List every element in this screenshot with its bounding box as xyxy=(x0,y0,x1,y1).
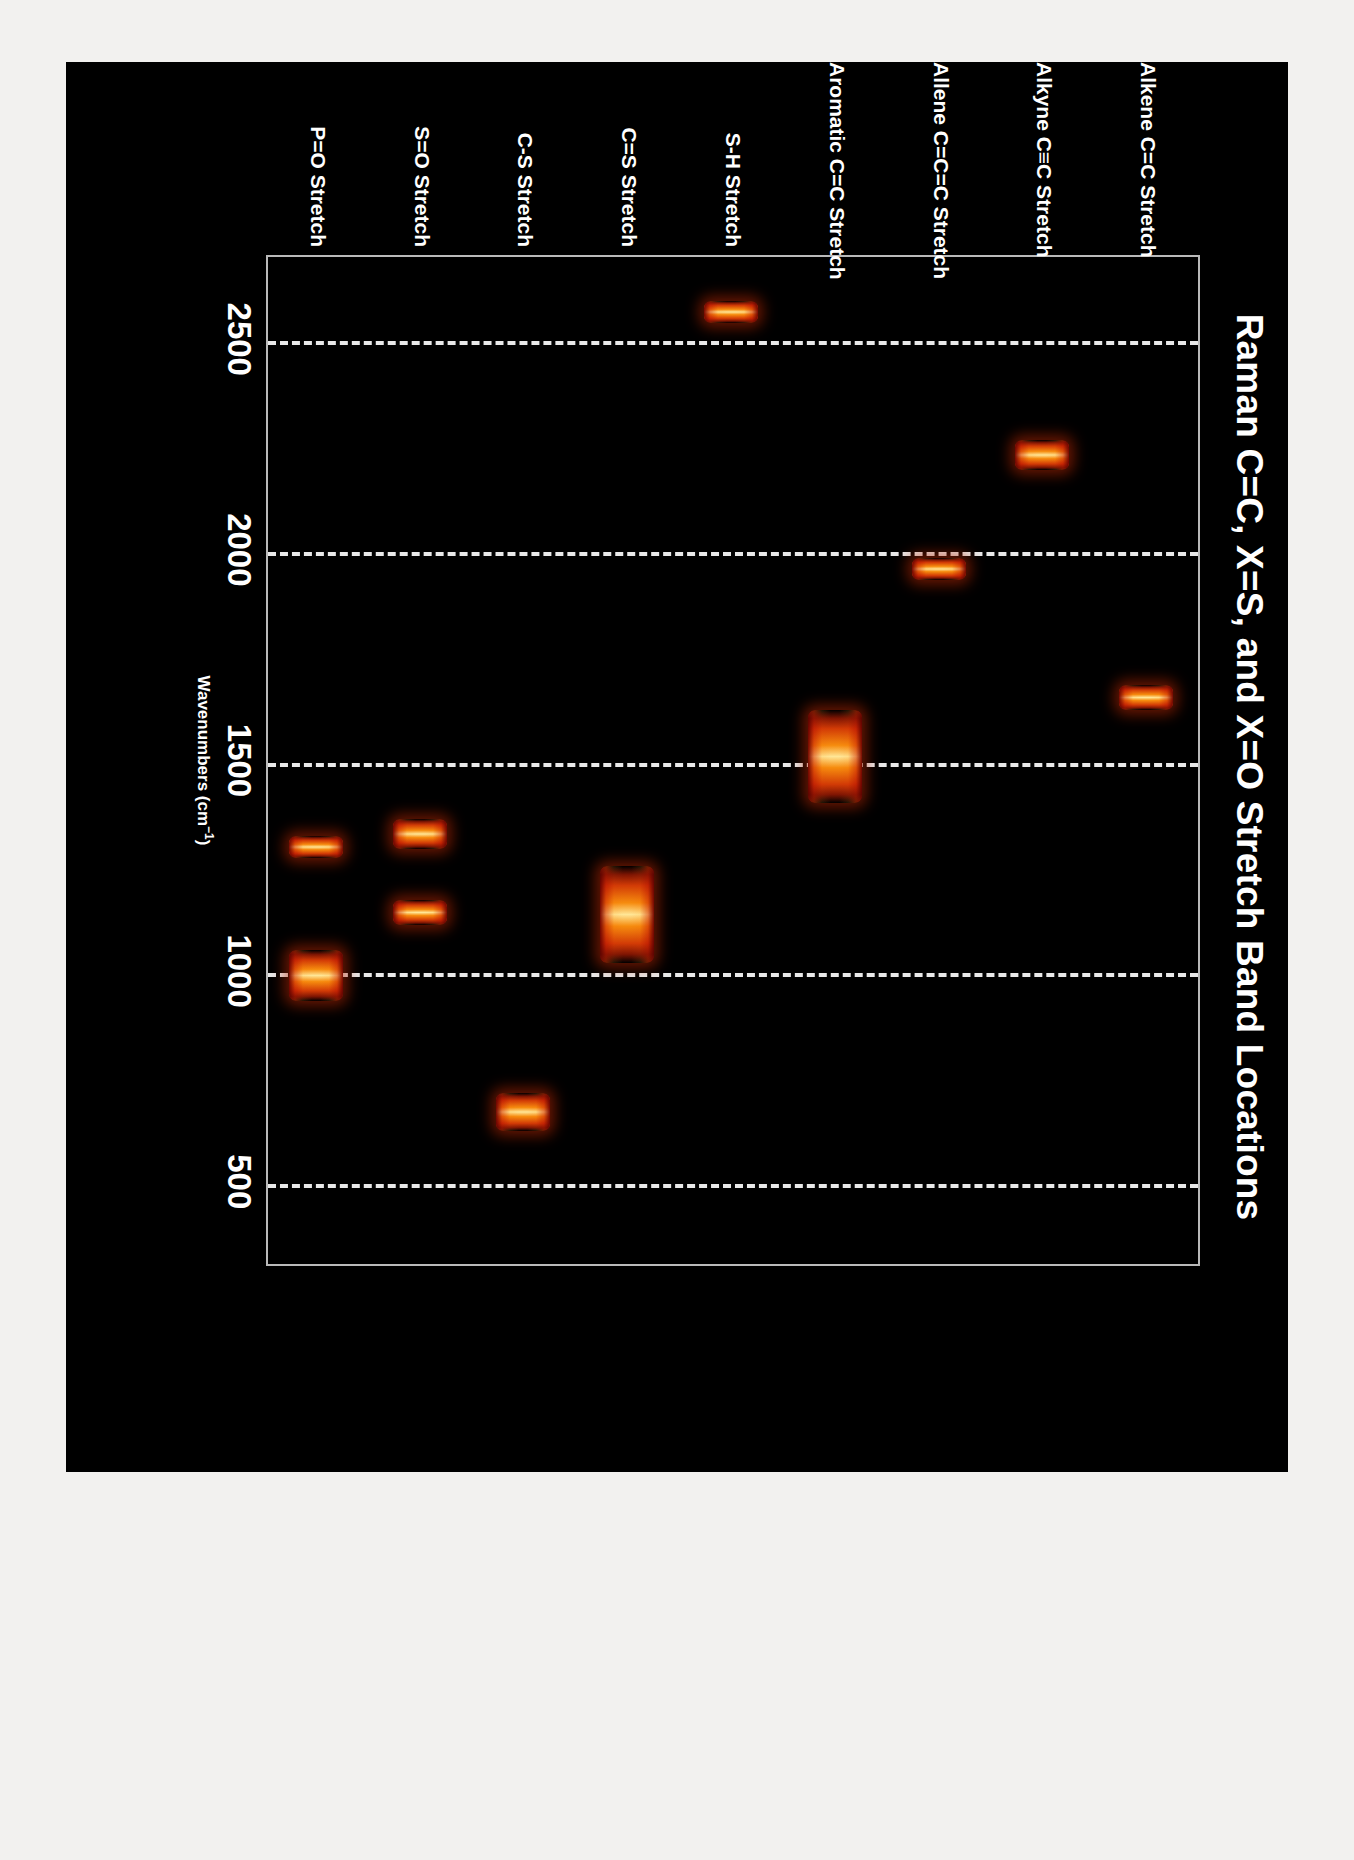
band-marker xyxy=(704,301,758,323)
rotated-chart-stage: Raman C=C, X=S, and X=O Stretch Band Loc… xyxy=(66,62,1288,1472)
band-marker xyxy=(393,819,447,848)
x-tick-label: 2500 xyxy=(220,303,258,376)
category-label: Alkene C=C Stretch xyxy=(1136,62,1160,247)
band-marker xyxy=(289,836,343,858)
gridline xyxy=(268,973,1198,977)
x-axis-label-text: Wavenumbers (cm−1) xyxy=(194,676,213,846)
x-tick-label: 1000 xyxy=(220,934,258,1007)
category-label: S-H Stretch xyxy=(721,62,745,247)
chart-title: Raman C=C, X=S, and X=O Stretch Band Loc… xyxy=(1228,62,1270,1472)
x-axis-label: Wavenumbers (cm−1) xyxy=(193,255,216,1266)
category-label: Allene C=C=C Stretch xyxy=(929,62,953,247)
category-label: C=S Stretch xyxy=(617,62,641,247)
band-marker xyxy=(289,950,343,1001)
plot-area xyxy=(266,255,1200,1266)
gridline xyxy=(268,1184,1198,1188)
band-marker xyxy=(1119,685,1173,710)
band-marker xyxy=(808,710,862,803)
page-root: Raman C=C, X=S, and X=O Stretch Band Loc… xyxy=(0,0,1354,1860)
chart-container: Raman C=C, X=S, and X=O Stretch Band Loc… xyxy=(66,62,1288,1472)
x-tick-label: 500 xyxy=(220,1154,258,1209)
slide-panel: Raman C=C, X=S, and X=O Stretch Band Loc… xyxy=(66,62,1288,1472)
band-marker xyxy=(1015,440,1069,469)
category-label: C-S Stretch xyxy=(513,62,537,247)
category-label: S=O Stretch xyxy=(410,62,434,247)
category-label: Aromatic C=C Stretch xyxy=(825,62,849,247)
gridline xyxy=(268,763,1198,767)
gridline xyxy=(268,341,1198,345)
category-label: Alkyne C≡C Stretch xyxy=(1032,62,1056,247)
category-label: P=O Stretch xyxy=(306,62,330,247)
band-marker xyxy=(912,558,966,580)
x-tick-label: 2000 xyxy=(220,513,258,586)
x-tick-label: 1500 xyxy=(220,724,258,797)
band-marker xyxy=(393,900,447,925)
band-marker xyxy=(600,866,654,963)
band-marker xyxy=(496,1093,550,1131)
gridline xyxy=(268,552,1198,556)
